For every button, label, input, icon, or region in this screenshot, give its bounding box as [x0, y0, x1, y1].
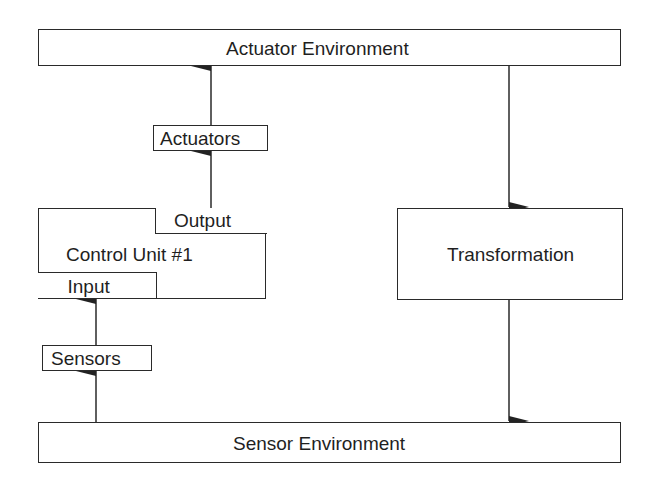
control-unit-box: Control Unit #1 Output Input [38, 208, 266, 299]
sensor-environment-label: Sensor Environment [233, 434, 405, 453]
actuator-environment-label: Actuator Environment [226, 39, 409, 58]
sensors-label: Sensors [51, 349, 121, 368]
actuators-label: Actuators [160, 129, 240, 148]
output-port-label: Output [174, 211, 231, 230]
transformation-label: Transformation [447, 245, 574, 264]
transformation-box: Transformation [397, 208, 623, 300]
control-unit-label: Control Unit #1 [66, 245, 193, 264]
output-port-box: Output [155, 208, 267, 234]
input-port-box: Input [38, 272, 157, 298]
sensor-environment-box: Sensor Environment [38, 422, 621, 463]
input-port-label: Input [68, 277, 110, 296]
actuator-environment-box: Actuator Environment [38, 29, 621, 66]
actuators-box: Actuators [153, 125, 268, 151]
sensors-box: Sensors [42, 345, 152, 371]
